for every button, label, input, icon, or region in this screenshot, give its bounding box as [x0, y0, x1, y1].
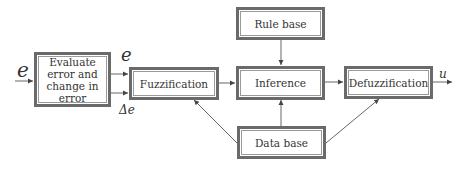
error-e-label: e [121, 44, 132, 65]
defuzzification-block: Defuzzification [344, 66, 433, 99]
output-u-label: u [439, 67, 447, 81]
evaluate-line-4: error [46, 92, 98, 104]
database-to-defuzz-arrow [326, 99, 379, 143]
evaluate-line-3: change in [46, 80, 98, 92]
evaluate-line-1: Evaluate [46, 56, 98, 68]
inference-label: Inference [255, 77, 306, 89]
data-base-block: Data base [237, 126, 326, 159]
evaluate-error-block: Evaluate error and change in error [34, 52, 111, 107]
input-e-label: e [17, 58, 29, 82]
data-base-label: Data base [255, 137, 308, 149]
evaluate-line-2: error and [46, 68, 98, 80]
inference-block: Inference [236, 66, 325, 100]
database-to-fuzz-arrow [194, 100, 237, 143]
rule-base-block: Rule base [236, 7, 325, 40]
delta-e-label: Δe [119, 103, 135, 117]
fuzzification-label: Fuzzification [140, 78, 208, 90]
defuzzification-label: Defuzzification [349, 77, 429, 89]
fuzzification-block: Fuzzification [129, 67, 219, 100]
rule-base-label: Rule base [254, 18, 306, 30]
